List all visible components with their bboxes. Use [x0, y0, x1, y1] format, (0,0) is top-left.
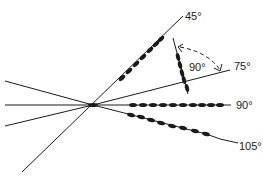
bead	[129, 103, 137, 107]
orientation-diagram: 45° 75° 90° 105° 90°	[0, 0, 263, 178]
bead	[139, 103, 147, 107]
center-knot	[88, 103, 98, 107]
bead	[168, 123, 177, 129]
bead	[127, 112, 136, 118]
bead	[157, 120, 166, 126]
bead	[177, 61, 183, 70]
bead	[146, 46, 155, 54]
bead	[202, 131, 211, 137]
bead	[216, 103, 224, 107]
label-75: 75°	[234, 60, 251, 72]
bead	[198, 103, 206, 107]
bead	[179, 103, 187, 107]
line-75	[5, 81, 93, 105]
bead	[184, 84, 190, 93]
bead	[179, 125, 188, 131]
bead	[175, 53, 181, 62]
arrowhead-left	[178, 44, 183, 52]
line-75-right	[93, 70, 230, 105]
label-45: 45°	[185, 10, 202, 22]
bead	[181, 76, 187, 85]
bead	[147, 117, 156, 123]
label-90: 90°	[236, 99, 253, 111]
label-105: 105°	[239, 140, 262, 152]
line-105	[93, 105, 238, 143]
bead	[137, 114, 146, 120]
bead	[179, 69, 185, 78]
bead	[169, 103, 177, 107]
bead	[159, 103, 167, 107]
bead	[189, 103, 197, 107]
bead	[149, 103, 157, 107]
bead	[191, 128, 200, 134]
label-rotation: 90°	[189, 61, 206, 73]
bead	[207, 103, 215, 107]
